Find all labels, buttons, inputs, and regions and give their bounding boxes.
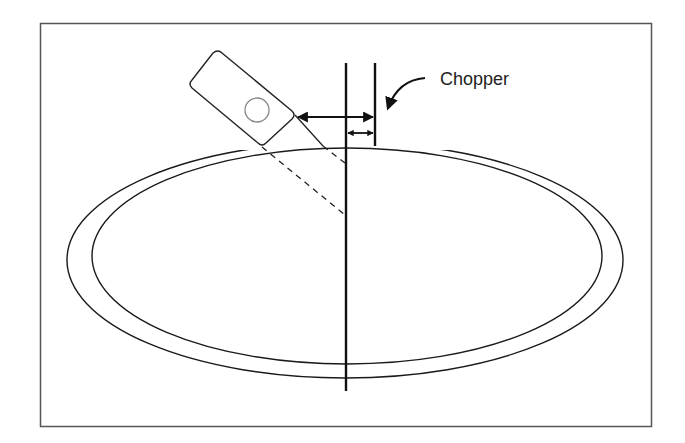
chopper-diagram: Chopper bbox=[0, 0, 685, 443]
chopper-pointer-arrow-icon bbox=[388, 78, 425, 108]
sensor-device bbox=[190, 51, 294, 145]
chopper-label: Chopper bbox=[440, 69, 509, 89]
beam-line-dashed-lower bbox=[262, 147, 345, 215]
beam-line-solid bbox=[295, 115, 323, 146]
